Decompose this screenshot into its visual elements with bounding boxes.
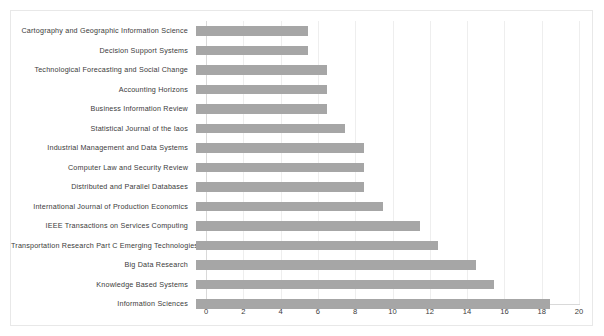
bar-track — [196, 177, 569, 197]
chart-row: Industrial Management and Data Systems — [11, 138, 594, 158]
x-tick-label: 12 — [415, 307, 445, 317]
chart-row: Knowledge Based Systems — [11, 275, 594, 295]
bar-track — [196, 80, 569, 100]
category-label: IEEE Transactions on Services Computing — [11, 221, 196, 230]
chart-row: Business Information Review — [11, 99, 594, 119]
chart-row: Statistical Journal of the Iaos — [11, 119, 594, 139]
x-tick-label: 18 — [527, 307, 557, 317]
x-tick-label: 2 — [228, 307, 258, 317]
category-label: Transportation Research Part C Emerging … — [11, 241, 196, 250]
bar[interactable] — [196, 65, 327, 75]
x-tick-label: 16 — [489, 307, 519, 317]
x-tick-label: 14 — [452, 307, 482, 317]
bar[interactable] — [196, 221, 420, 231]
category-label: Computer Law and Security Review — [11, 163, 196, 172]
chart-row: Big Data Research — [11, 255, 594, 275]
bar-rows: Cartography and Geographic Information S… — [11, 21, 594, 304]
chart-row: Computer Law and Security Review — [11, 158, 594, 178]
bar-track — [196, 99, 569, 119]
bar[interactable] — [196, 280, 494, 290]
category-label: Accounting Horizons — [11, 85, 196, 94]
bar[interactable] — [196, 241, 438, 251]
bar[interactable] — [196, 124, 345, 134]
category-label: Information Sciences — [11, 299, 196, 308]
category-label: Business Information Review — [11, 104, 196, 113]
bar[interactable] — [196, 260, 476, 270]
category-label: Industrial Management and Data Systems — [11, 143, 196, 152]
bar-track — [196, 41, 569, 61]
bar-track — [196, 60, 569, 80]
bar[interactable] — [196, 46, 308, 56]
category-label: Big Data Research — [11, 260, 196, 269]
bar-track — [196, 255, 569, 275]
x-tick-label: 0 — [191, 307, 221, 317]
chart-row: Accounting Horizons — [11, 80, 594, 100]
category-label: Knowledge Based Systems — [11, 280, 196, 289]
chart-row: Transportation Research Part C Emerging … — [11, 236, 594, 256]
x-axis-tick-labels: 02468101214161820 — [206, 307, 579, 321]
chart-row: Distributed and Parallel Databases — [11, 177, 594, 197]
bar-track — [196, 197, 569, 217]
bar[interactable] — [196, 85, 327, 95]
bar[interactable] — [196, 163, 364, 173]
bar-track — [196, 158, 569, 178]
chart-row: Cartography and Geographic Information S… — [11, 21, 594, 41]
category-label: Technological Forecasting and Social Cha… — [11, 65, 196, 74]
x-tick-label: 20 — [564, 307, 594, 317]
bar[interactable] — [196, 26, 308, 36]
category-label: Distributed and Parallel Databases — [11, 182, 196, 191]
x-tick-label: 8 — [340, 307, 370, 317]
bar[interactable] — [196, 104, 327, 114]
bar-track — [196, 236, 569, 256]
bar-track — [196, 21, 569, 41]
chart-container: Cartography and Geographic Information S… — [10, 10, 593, 326]
chart-row: IEEE Transactions on Services Computing — [11, 216, 594, 236]
x-tick-label: 6 — [303, 307, 333, 317]
category-label: Statistical Journal of the Iaos — [11, 124, 196, 133]
bar[interactable] — [196, 143, 364, 153]
category-label: Decision Support Systems — [11, 46, 196, 55]
bar-track — [196, 216, 569, 236]
bar[interactable] — [196, 202, 383, 212]
chart-row: Technological Forecasting and Social Cha… — [11, 60, 594, 80]
bar-track — [196, 138, 569, 158]
bar[interactable] — [196, 182, 364, 192]
chart-row: International Journal of Production Econ… — [11, 197, 594, 217]
x-tick-label: 10 — [378, 307, 408, 317]
category-label: Cartography and Geographic Information S… — [11, 26, 196, 35]
bar-track — [196, 275, 569, 295]
category-label: International Journal of Production Econ… — [11, 202, 196, 211]
x-tick-label: 4 — [266, 307, 296, 317]
bar-track — [196, 119, 569, 139]
chart-row: Decision Support Systems — [11, 41, 594, 61]
